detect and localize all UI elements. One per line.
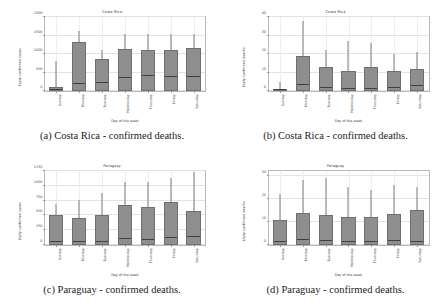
box-plot-column: Tuesday xyxy=(319,171,333,245)
x-tick-mark xyxy=(417,245,418,247)
x-tick-mark xyxy=(148,245,149,247)
y-tick-mark xyxy=(267,175,269,176)
y-tick-label-c-3: 750 xyxy=(36,195,42,199)
x-tick-label-b-sunday: Sunday xyxy=(281,94,285,106)
subfigure-a: Costa Rica Daily confirmed cases 0500100… xyxy=(0,0,224,154)
axes-b: 010203040SundayMondayTuesdayWednesdayThu… xyxy=(268,16,430,92)
x-axis-label-b: Day of the week xyxy=(268,119,430,123)
x-tick-label-a-tuesday: Tuesday xyxy=(103,94,107,107)
box-rect xyxy=(341,71,355,91)
y-tick-mark xyxy=(267,221,269,222)
box-rect xyxy=(118,205,132,245)
x-tick-mark xyxy=(194,245,195,247)
median-line xyxy=(297,239,309,240)
y-tick-mark xyxy=(43,200,45,201)
x-tick-label-b-friday: Friday xyxy=(396,94,400,104)
x-tick-mark xyxy=(303,245,304,247)
caption-c: (c) Paraguay - confirmed deaths. xyxy=(43,284,180,295)
x-tick-mark xyxy=(394,91,395,93)
x-tick-label-c-thursday: Thursday xyxy=(149,248,153,263)
subfigure-c: Paraguay Daily confirmed cases 025050075… xyxy=(0,154,224,307)
whisker-upper xyxy=(79,200,80,218)
x-tick-mark xyxy=(280,245,281,247)
y-tick-label-a-2: 1000 xyxy=(34,48,43,52)
box-rect xyxy=(141,50,155,91)
box-rect xyxy=(364,217,378,245)
median-line xyxy=(388,87,400,88)
x-tick-label-d-saturday: Saturday xyxy=(418,248,422,263)
y-tick-label-d-0: 0 xyxy=(264,239,266,243)
median-line xyxy=(50,241,62,242)
box-plot-column: Friday xyxy=(387,171,401,245)
whisker-upper xyxy=(56,204,57,216)
figure-grid: Costa Rica Daily confirmed cases 0500100… xyxy=(0,0,447,307)
plot-c: Paraguay Daily confirmed cases 025050075… xyxy=(14,162,210,280)
plot-d: Paraguay Daily confirmed deaths 0102030S… xyxy=(238,162,434,280)
median-line xyxy=(342,241,354,242)
y-tick-label-d-3: 30 xyxy=(262,170,266,174)
x-tick-mark xyxy=(102,91,103,93)
x-axis-label-a: Day of the week xyxy=(44,119,206,123)
y-tick-mark xyxy=(43,244,45,245)
whisker-upper xyxy=(193,172,194,210)
box-plot-column: Wednesday xyxy=(118,171,132,245)
median-line xyxy=(119,77,131,78)
x-tick-label-d-monday: Monday xyxy=(304,248,308,261)
x-tick-label-a-saturday: Saturday xyxy=(195,94,199,109)
median-line xyxy=(119,238,131,239)
box-rect xyxy=(49,215,63,245)
whisker-upper xyxy=(325,178,326,215)
x-tick-mark xyxy=(56,91,57,93)
y-tick-label-a-3: 1500 xyxy=(34,30,43,34)
whisker-upper xyxy=(325,50,326,67)
whisker-upper xyxy=(147,34,148,50)
box-plot-column: Monday xyxy=(72,171,86,245)
y-tick-mark xyxy=(43,229,45,230)
whisker-upper xyxy=(147,182,148,207)
median-line xyxy=(388,240,400,241)
caption-a: (a) Costa Rica - confirmed deaths. xyxy=(40,130,184,141)
median-line xyxy=(142,75,154,76)
whisker-upper xyxy=(394,54,395,71)
median-line xyxy=(411,85,423,86)
median-line xyxy=(165,237,177,238)
whisker-upper xyxy=(170,34,171,50)
x-tick-mark xyxy=(125,245,126,247)
whisker-upper xyxy=(302,21,303,56)
box-plot-column: Saturday xyxy=(186,171,200,245)
x-tick-label-a-sunday: Sunday xyxy=(58,94,62,106)
box-plot-column: Monday xyxy=(296,171,310,245)
x-tick-label-a-thursday: Thursday xyxy=(149,94,153,109)
box-plot-column: Thursday xyxy=(141,17,155,91)
y-axis-label-b: Daily confirmed deaths xyxy=(242,47,246,86)
whisker-upper xyxy=(394,185,395,214)
median-line xyxy=(165,76,177,77)
box-rect xyxy=(341,217,355,245)
box-rect xyxy=(319,215,333,245)
y-tick-mark xyxy=(43,16,45,17)
x-tick-label-c-tuesday: Tuesday xyxy=(103,248,107,261)
x-tick-mark xyxy=(326,91,327,93)
box-plot-column: Monday xyxy=(296,17,310,91)
median-line xyxy=(342,88,354,89)
subfigure-d: Paraguay Daily confirmed deaths 0102030S… xyxy=(224,154,447,307)
x-tick-label-a-friday: Friday xyxy=(172,94,176,104)
whisker-upper xyxy=(371,190,372,218)
box-rect xyxy=(72,218,86,245)
box-plot-column: Friday xyxy=(164,17,178,91)
box-plot-column: Wednesday xyxy=(118,17,132,91)
whisker-upper xyxy=(79,31,80,42)
whisker-upper xyxy=(56,61,57,88)
box-plot-column: Sunday xyxy=(273,17,287,91)
whisker-upper xyxy=(348,41,349,71)
median-line xyxy=(187,236,199,237)
y-tick-mark xyxy=(43,35,45,36)
x-tick-label-d-sunday: Sunday xyxy=(281,248,285,260)
y-tick-label-b-0: 0 xyxy=(264,85,266,89)
median-line xyxy=(365,241,377,242)
chart-title-d: Paraguay xyxy=(238,164,434,168)
median-line xyxy=(297,84,309,85)
box-plot-column: Tuesday xyxy=(319,17,333,91)
box-plot-column: Monday xyxy=(72,17,86,91)
box-plot-column: Sunday xyxy=(49,17,63,91)
